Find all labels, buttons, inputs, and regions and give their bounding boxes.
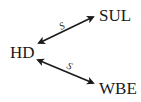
node-hd: HD (10, 44, 35, 61)
edge-label-hd-sul: S (57, 20, 66, 32)
node-sul: SUL (99, 7, 131, 24)
edge-hd-wbe: S (38, 60, 93, 83)
double-arrow-icon (39, 17, 93, 43)
edge-label-hd-wbe: S (65, 60, 74, 72)
node-wbe: WBE (99, 80, 137, 97)
edge-hd-sul: S (39, 17, 93, 43)
double-arrow-icon (38, 60, 93, 83)
